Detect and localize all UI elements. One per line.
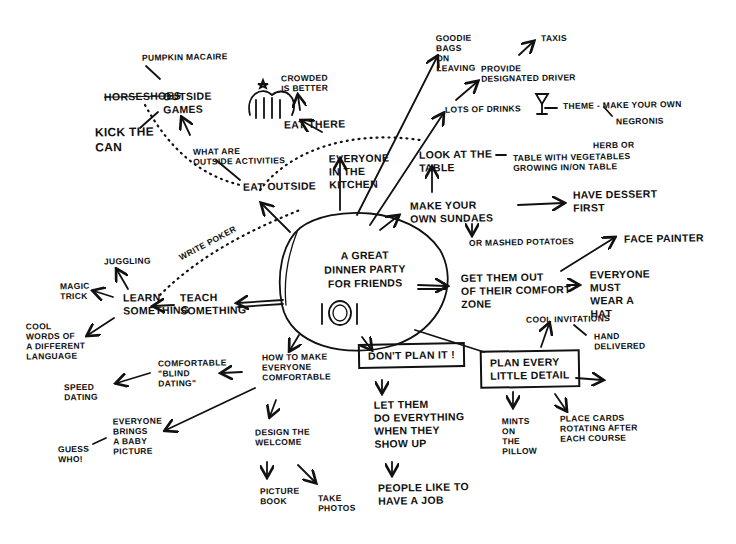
node-plan-every-detail: PLAN EVERY LITTLE DETAIL [480,349,580,389]
node-blind-dating: COMFORTABLE "BLIND DATING" [158,357,227,388]
node-speed-dating: SPEED DATING [64,382,98,403]
node-negronis: NEGRONIS [616,116,664,127]
node-eat-outside: EAT OUTSIDE [243,179,316,193]
node-everyone-in-kitchen: EVERYONE IN THE KITCHEN [329,151,390,191]
node-learn-something: LEARN SOMETHING [123,290,190,317]
node-face-painter: FACE PAINTER [624,231,704,245]
node-juggling: JUGGLING [104,256,151,267]
node-herb: HERB OR [593,140,634,151]
node-foreign-words: COOL WORDS OF A DIFFERENT LANGUAGE [26,320,86,361]
node-kick-the-can: KICK THE CAN [95,124,155,155]
node-take-photos: TAKE PHOTOS [318,493,356,514]
node-baby-picture: EVERYONE BRINGS A BABY PICTURE [113,416,163,457]
node-lots-of-drinks: LOTS OF DRINKS [445,103,521,114]
node-teach-something: TEACH SOMETHING [180,290,247,317]
node-goodie-bags: GOODIE BAGS ON LEAVING [436,33,476,74]
node-cool-invitations: COOL INVITATIONS [526,313,610,324]
node-outside-activities: WHAT ARE OUTSIDE ACTIVITIES [193,145,285,167]
node-outside-games: OUTSIDE GAMES [163,90,212,117]
node-design-welcome: DESIGN THE WELCOME [255,427,310,448]
node-taxis: TAXIS [541,33,567,43]
node-place-cards: PLACE CARDS ROTATING AFTER EACH COURSE [560,412,638,443]
node-guess-who: GUESS WHO! [58,444,90,465]
node-dont-plan-it: DON'T PLAN IT ! [358,342,465,369]
node-how-to-make-comfortable: HOW TO MAKE EVERYONE COMFORTABLE [262,351,331,382]
node-magic-trick: MAGIC TRICK [60,281,90,302]
node-mashed-potatoes: OR MASHED POTATOES [469,236,574,248]
node-make-sundaes: MAKE YOUR OWN SUNDAES [410,198,494,225]
node-crowded-is-better: CROWDED IS BETTER [281,73,328,94]
node-people-like-a-job: PEOPLE LIKE TO HAVE A JOB [378,480,469,508]
node-designated-driver: PROVIDE DESIGNATED DRIVER [481,62,576,84]
node-look-at-table: LOOK AT THE TABLE [419,147,493,174]
node-eat-there: EAT THERE [284,117,346,131]
node-pumpkin-macaire: PUMPKIN MACAIRE [142,51,228,62]
node-let-them-do-everything: LET THEM DO EVERYTHING WHEN THEY SHOW UP [374,397,465,451]
node-dessert-first: HAVE DESSERT FIRST [573,187,658,214]
node-comfort-zone: GET THEM OUT OF THEIR COMFORT ZONE [461,270,571,311]
central-topic: A GREAT DINNER PARTY FOR FRIENDS [300,247,431,291]
node-theme: THEME - MAKE YOUR OWN [563,99,682,111]
node-picture-book: PICTURE BOOK [260,486,300,507]
node-hand-delivered: HAND DELIVERED [594,331,646,352]
plate-and-cutlery-icon [322,301,357,325]
cocktail-glass-icon [536,94,548,114]
node-table-vegetables: TABLE WITH VEGETABLES GROWING IN/ON TABL… [513,151,631,173]
node-mints-on-pillow: MINTS ON THE PILLOW [502,416,538,457]
